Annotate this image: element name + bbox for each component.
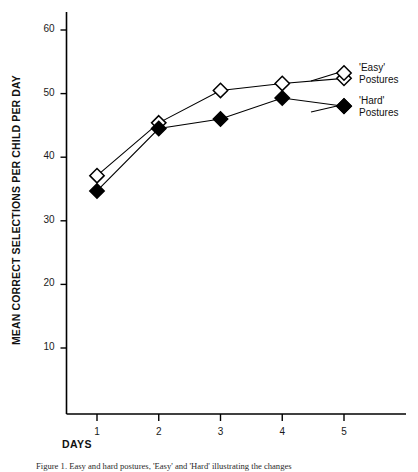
legend-label-easy-line2: Postures <box>359 74 398 86</box>
y-tick-label: 10 <box>29 341 55 352</box>
data-point-easy-day-3 <box>213 83 227 97</box>
legend-connector-hard <box>311 106 337 112</box>
y-tick-label: 40 <box>29 150 55 161</box>
x-tick-label: 4 <box>275 426 289 437</box>
x-tick-label: 5 <box>337 426 351 437</box>
chart-plot-area <box>0 0 418 472</box>
y-tick-label: 20 <box>29 277 55 288</box>
legend-markers <box>337 66 351 113</box>
y-axis-ticks <box>61 30 67 348</box>
x-tick-label: 1 <box>90 426 104 437</box>
y-tick-label: 60 <box>29 23 55 34</box>
y-tick-label: 30 <box>29 214 55 225</box>
legend-label-hard-line2: Postures <box>359 107 398 119</box>
data-point-hard-day-3 <box>213 112 227 126</box>
data-point-hard-day-4 <box>275 91 289 105</box>
legend-item-easy-postures: 'Easy' Postures <box>359 62 398 85</box>
legend-label-easy-line1: 'Easy' <box>359 62 385 73</box>
x-axis-ticks <box>97 414 344 421</box>
legend-item-hard-postures: 'Hard' Postures <box>359 95 398 118</box>
legend-marker-hard <box>337 99 351 113</box>
figure-panel: MEAN CORRECT SELECTIONS PER CHILD PER DA… <box>0 0 418 472</box>
axis-lines <box>67 12 407 414</box>
x-axis-title: DAYS <box>62 438 92 450</box>
legend-label-hard-line1: 'Hard' <box>359 95 385 106</box>
series-markers <box>90 71 351 198</box>
figure-caption: Figure 1. Easy and hard postures, 'Easy'… <box>36 461 408 472</box>
x-tick-label: 3 <box>214 426 228 437</box>
data-point-easy-day-4 <box>275 76 289 90</box>
y-tick-label: 50 <box>29 87 55 98</box>
x-tick-label: 2 <box>152 426 166 437</box>
data-point-easy-day-1 <box>90 168 104 182</box>
